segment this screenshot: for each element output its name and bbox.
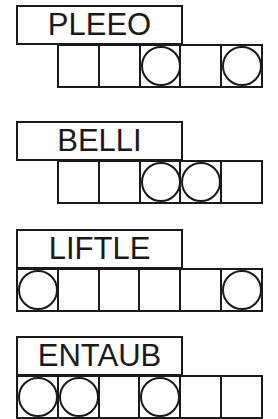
answer-cell[interactable] <box>100 46 141 86</box>
circled-answer-cell[interactable] <box>59 377 100 417</box>
answer-cells <box>16 268 263 312</box>
circled-answer-cell[interactable] <box>18 377 59 417</box>
scrambled-word: ENTAUB <box>16 336 183 376</box>
scrambled-word: LIFTLE <box>16 229 183 269</box>
circled-answer-cell[interactable] <box>141 162 182 202</box>
answer-cell[interactable] <box>222 377 261 417</box>
answer-cell[interactable] <box>59 270 100 310</box>
answer-cells <box>57 44 263 88</box>
answer-cells <box>16 375 263 419</box>
scrambled-word: PLEEO <box>16 5 183 45</box>
answer-cell[interactable] <box>100 377 141 417</box>
circled-answer-cell[interactable] <box>140 377 181 417</box>
answer-cell[interactable] <box>222 162 261 202</box>
circled-answer-cell[interactable] <box>141 46 182 86</box>
answer-cell[interactable] <box>181 270 222 310</box>
scrambled-word: BELLI <box>16 121 183 161</box>
circled-answer-cell[interactable] <box>18 270 59 310</box>
answer-cell[interactable] <box>140 270 181 310</box>
circled-answer-cell[interactable] <box>181 162 222 202</box>
circled-answer-cell[interactable] <box>222 46 261 86</box>
answer-cell[interactable] <box>59 46 100 86</box>
answer-cell[interactable] <box>100 270 141 310</box>
answer-cell[interactable] <box>181 377 222 417</box>
answer-cell[interactable] <box>181 46 222 86</box>
answer-cells <box>57 160 263 204</box>
circled-answer-cell[interactable] <box>222 270 261 310</box>
answer-cell[interactable] <box>100 162 141 202</box>
answer-cell[interactable] <box>59 162 100 202</box>
